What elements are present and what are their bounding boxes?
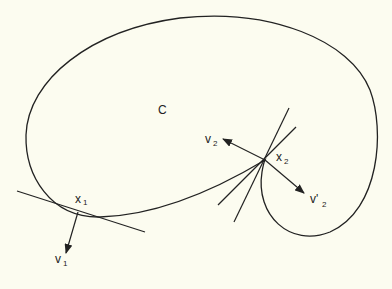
point-subscript-x2: 2 — [284, 158, 288, 166]
vector-subscript-v1: 1 — [63, 260, 67, 268]
point-label-x1: x — [75, 193, 81, 205]
diagram-canvas — [0, 0, 392, 289]
point-subscript-x1: 1 — [83, 199, 87, 207]
point-label-x2: x — [276, 151, 282, 163]
vector-label-v2: v — [205, 133, 211, 145]
vector-subscript-v2: 2 — [213, 140, 217, 148]
vector-v2-arrow — [223, 139, 265, 160]
vector-label-v2prime: v' — [310, 193, 318, 205]
vector-v1-arrow — [66, 212, 78, 253]
vector-label-v1: v — [55, 253, 61, 265]
tangent-line-x2-b — [234, 108, 289, 222]
tangent-line-x1 — [17, 191, 145, 232]
vector-subscript-v2prime: 2 — [322, 201, 326, 209]
curve-label-c: C — [158, 104, 167, 116]
tangent-line-x2-a — [218, 127, 296, 205]
